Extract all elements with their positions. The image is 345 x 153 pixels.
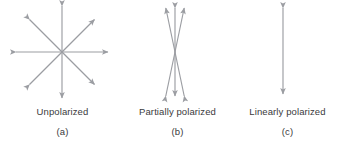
partially-polarized-arrows [125, 2, 230, 102]
partially-polarized-svg [125, 2, 230, 102]
linearly-polarized-svg [230, 2, 345, 102]
sub-caption-b: (b) [125, 126, 230, 138]
sub-caption-c: (c) [230, 126, 345, 138]
caption-partially-polarized: Partially polarized [125, 106, 230, 118]
panel-linearly-polarized: Linearly polarized (c) [230, 0, 345, 153]
sub-caption-a: (a) [0, 126, 125, 138]
linearly-polarized-arrow [230, 2, 345, 102]
unpolarized-svg [0, 2, 125, 102]
caption-linearly-polarized: Linearly polarized [230, 106, 345, 118]
panel-partially-polarized: Partially polarized (b) [125, 0, 230, 153]
unpolarized-arrow-star [0, 2, 125, 102]
panel-unpolarized: Unpolarized (a) [0, 0, 125, 153]
caption-unpolarized: Unpolarized [0, 106, 125, 118]
polarization-figure: Unpolarized (a) Parti [0, 0, 345, 153]
